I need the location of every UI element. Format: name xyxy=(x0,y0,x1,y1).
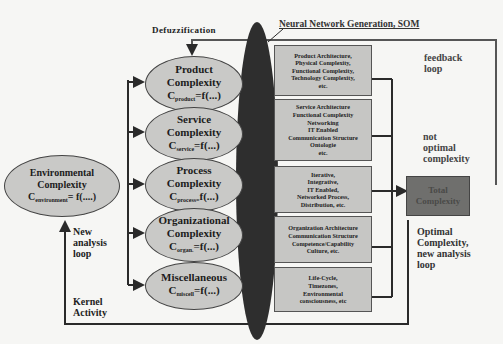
kernel-activity-label: Kernel Activity xyxy=(73,296,107,318)
organizational-complexity-node: Organizational Complexity Corgan.=f(...) xyxy=(145,208,243,262)
service-details-box: Service Architecture Functional Complexi… xyxy=(274,99,372,161)
not-optimal-label: not optimal complexity xyxy=(423,131,470,164)
new-analysis-loop-label: New analysis loop xyxy=(73,226,107,259)
total-complexity-node: Total Complexity xyxy=(406,176,470,216)
optimal-complexity-label: Optimal Complexity, new analysis loop xyxy=(417,226,471,270)
defuzzification-label: Defuzzification xyxy=(152,25,216,36)
product-complexity-node: Product Complexity Cproduct=f(...) xyxy=(145,56,243,112)
miscellaneous-details-box: Life-Cycle, Timezones, Environmental con… xyxy=(274,267,372,312)
miscellaneous-complexity-node: Miscellaneous Cmiscell=f(...) xyxy=(145,262,243,310)
product-details-box: Product Architecture, Physical Complexit… xyxy=(274,45,372,96)
organization-details-box: Organization Architecture Communication … xyxy=(274,216,372,263)
process-details-box: Iterative, Integrative, IT Enabled, Netw… xyxy=(274,166,372,213)
service-complexity-node: Service Complexity Cservice=f(...) xyxy=(145,107,243,161)
environmental-complexity-node: Environmental Complexity Cenvironment= f… xyxy=(4,155,120,217)
som-label: Neural Network Generation, SOM xyxy=(279,19,419,29)
process-complexity-node: Process Complexity Cprocess=f(...) xyxy=(145,158,243,212)
feedback-loop-label: feedback loop xyxy=(424,52,462,74)
